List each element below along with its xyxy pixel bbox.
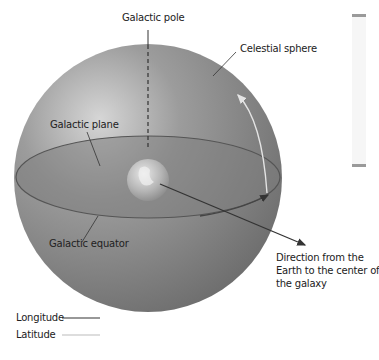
direction-label-line3: the galaxy (276, 278, 327, 290)
legend-latitude-label: Latitude (16, 329, 56, 341)
direction-label-line2: Earth to the center of (276, 265, 379, 277)
galactic-equator-label: Galactic equator (49, 238, 129, 250)
galactic-pole-label: Galactic pole (122, 12, 184, 24)
legend-longitude-label: Longitude (16, 312, 64, 324)
direction-label-line1: Direction from the (276, 252, 364, 264)
celestial-sphere-label: Celestial sphere (240, 43, 317, 55)
galactic-plane-label: Galactic plane (50, 119, 119, 131)
